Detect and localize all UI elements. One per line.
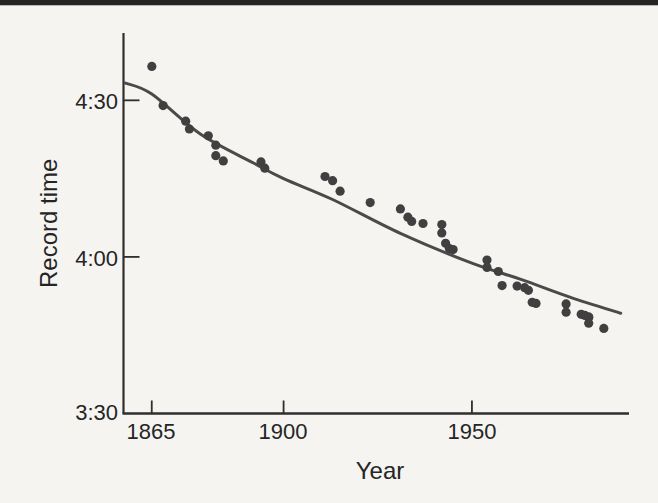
data-point bbox=[498, 281, 507, 290]
y-tick-label-4-30: 4:30 bbox=[58, 89, 118, 115]
data-point bbox=[336, 187, 345, 196]
x-tick-label-1950: 1950 bbox=[427, 419, 517, 445]
data-point bbox=[437, 228, 446, 237]
data-point bbox=[147, 62, 156, 71]
y-tick-label-4-00: 4:00 bbox=[58, 246, 118, 272]
data-point bbox=[219, 156, 228, 165]
data-point bbox=[449, 245, 458, 254]
trend-curve bbox=[125, 83, 620, 313]
data-point bbox=[204, 131, 213, 140]
data-point bbox=[181, 117, 190, 126]
data-point bbox=[584, 319, 593, 328]
data-point bbox=[524, 286, 533, 295]
data-point bbox=[366, 198, 375, 207]
data-point bbox=[185, 124, 194, 133]
data-point bbox=[482, 263, 491, 272]
data-point bbox=[599, 324, 608, 333]
data-point bbox=[159, 101, 168, 110]
data-point bbox=[437, 220, 446, 229]
data-point bbox=[562, 308, 571, 317]
data-point bbox=[494, 267, 503, 276]
data-point bbox=[418, 219, 427, 228]
data-point bbox=[407, 217, 416, 226]
data-point bbox=[211, 141, 220, 150]
data-point bbox=[260, 164, 269, 173]
x-tick-label-1900: 1900 bbox=[238, 419, 328, 445]
page-background: Record time Year 4:30 4:00 3:30 1865 190… bbox=[0, 0, 658, 503]
data-point bbox=[211, 151, 220, 160]
data-point bbox=[513, 282, 522, 291]
x-axis-title: Year bbox=[330, 457, 430, 485]
data-point bbox=[531, 299, 540, 308]
data-point bbox=[328, 176, 337, 185]
x-tick-label-1865: 1865 bbox=[106, 419, 196, 445]
data-point bbox=[562, 299, 571, 308]
data-point bbox=[396, 204, 405, 213]
